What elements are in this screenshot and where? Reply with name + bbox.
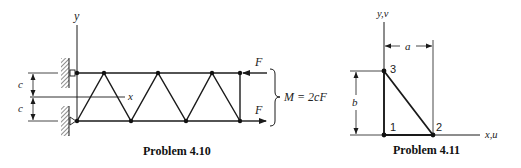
node-1 <box>382 133 387 138</box>
problem-4-11-figure: y,v x,u a b 1 2 3 Problem 4.11 <box>350 8 498 157</box>
node-3 <box>382 69 387 74</box>
truss-node <box>184 119 188 123</box>
truss-node <box>102 71 106 75</box>
dimension-label-lower-c: c <box>18 102 23 114</box>
truss-node <box>75 119 79 123</box>
x-axis-label: x,u <box>484 129 498 140</box>
moment-label: M = 2cF <box>283 90 327 104</box>
x-axis-label: x <box>127 90 133 102</box>
y-axis-label: y <box>73 9 80 23</box>
upper-wall-support <box>61 58 69 88</box>
truss-node <box>129 119 133 123</box>
truss-node <box>156 71 160 75</box>
y-axis-label: y,v <box>376 8 389 19</box>
node-label-1: 1 <box>390 121 396 133</box>
force-label-bottom: F <box>254 103 263 117</box>
dimension-label-upper-c: c <box>18 78 23 90</box>
truss-node <box>238 119 242 123</box>
lower-wall-support <box>61 106 69 136</box>
diagram-canvas: y x c c <box>0 0 521 168</box>
node-label-3: 3 <box>390 63 396 75</box>
truss-node <box>75 71 79 75</box>
dimension-label-b: b <box>352 96 358 108</box>
caption-problem-4-10: Problem 4.10 <box>143 144 211 158</box>
node-label-2: 2 <box>436 121 442 133</box>
truss-node <box>238 71 242 75</box>
moment-brace <box>270 69 280 126</box>
problem-4-10-figure: y x c c <box>18 9 327 158</box>
roller-support-icon <box>70 70 75 76</box>
truss-node <box>210 71 214 75</box>
dimension-label-a: a <box>405 40 411 52</box>
caption-problem-4-11: Problem 4.11 <box>393 143 460 157</box>
node-2 <box>431 133 436 138</box>
force-label-top: F <box>254 55 263 69</box>
